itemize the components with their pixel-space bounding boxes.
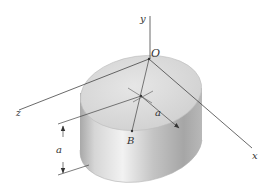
z-axis-label: z: [15, 108, 21, 118]
point-b: [131, 130, 133, 132]
point-origin: [148, 58, 150, 60]
origin-label: O: [151, 47, 160, 60]
y-axis-label: y: [139, 13, 146, 24]
point-b-label: B: [126, 135, 134, 146]
x-axis-label: x: [252, 150, 258, 161]
radius-label: a: [155, 107, 161, 118]
height-label: a: [56, 144, 62, 155]
cylinder-diagram: O y z x B a a: [0, 0, 263, 188]
